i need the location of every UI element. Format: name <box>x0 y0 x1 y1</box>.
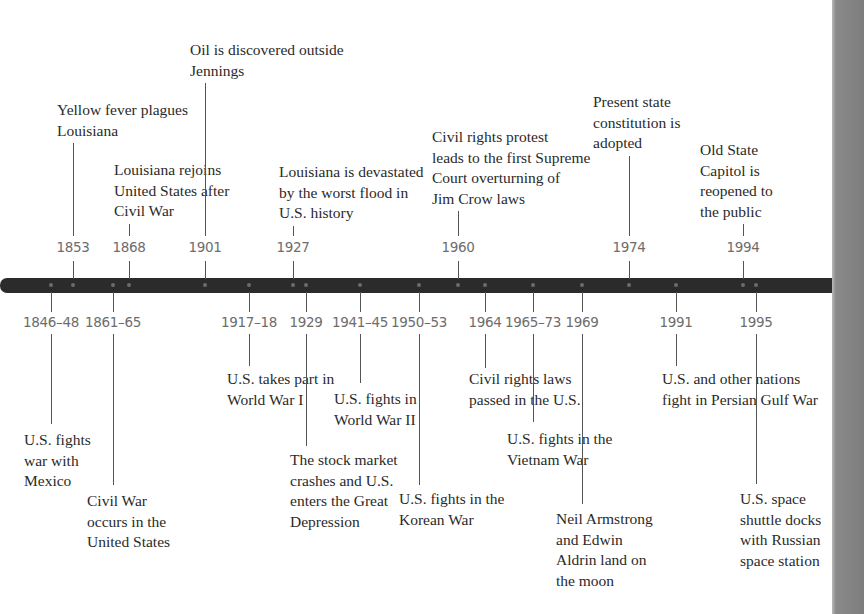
timeline-marker <box>580 283 584 287</box>
timeline-marker <box>417 283 421 287</box>
connector-line <box>629 261 630 279</box>
connector-line <box>73 143 74 236</box>
connector-line <box>743 224 744 236</box>
connector-line <box>129 224 130 237</box>
connector-line <box>582 292 583 312</box>
event-description: Oil is discovered outside Jennings <box>190 40 344 81</box>
timeline-marker <box>304 283 308 287</box>
event-description: U.S. fights in World War II <box>334 389 417 430</box>
event-description: U.S. fights in the Vietnam War <box>507 429 613 470</box>
event-year: 1991 <box>659 314 692 330</box>
event-description: Present state constitution is adopted <box>593 92 680 154</box>
timeline-marker <box>127 283 131 287</box>
event-description: U.S. and other nations fight in Persian … <box>662 369 818 410</box>
connector-line <box>73 261 74 279</box>
event-year: 1969 <box>565 314 598 330</box>
event-description: Louisiana is devastated by the worst flo… <box>279 162 424 224</box>
connector-line <box>205 261 206 279</box>
timeline-marker <box>247 283 251 287</box>
event-year: 1861–65 <box>85 314 141 330</box>
page-edge-strip <box>832 0 864 614</box>
timeline-marker <box>531 283 535 287</box>
connector-line <box>458 261 459 279</box>
timeline-marker <box>111 283 115 287</box>
event-description: Old State Capitol is reopened to the pub… <box>700 140 773 222</box>
timeline-marker <box>627 283 631 287</box>
connector-line <box>533 292 534 312</box>
connector-line <box>113 292 114 312</box>
timeline-bar <box>0 278 832 293</box>
connector-line <box>205 83 206 236</box>
connector-line <box>293 226 294 237</box>
connector-line <box>419 334 420 485</box>
event-year: 1868 <box>112 239 145 255</box>
event-year: 1941–45 <box>332 314 388 330</box>
timeline-marker <box>741 283 745 287</box>
timeline-marker <box>358 283 362 287</box>
connector-line <box>676 334 677 366</box>
event-year: 1853 <box>56 239 89 255</box>
event-year: 1995 <box>739 314 772 330</box>
connector-line <box>113 334 114 485</box>
event-year: 1964 <box>468 314 501 330</box>
connector-line <box>306 292 307 312</box>
connector-line <box>51 292 52 312</box>
event-description: U.S. fights in the Korean War <box>399 489 505 530</box>
connector-line <box>533 334 534 422</box>
event-description: Civil rights laws passed in the U.S. <box>469 369 581 410</box>
event-year: 1917–18 <box>221 314 277 330</box>
connector-line <box>360 334 361 383</box>
connector-line <box>756 292 757 312</box>
connector-line <box>129 261 130 279</box>
event-year: 1994 <box>726 239 759 255</box>
timeline-marker <box>674 283 678 287</box>
connector-line <box>293 261 294 279</box>
event-year: 1846–48 <box>23 314 79 330</box>
event-description: The stock market crashes and U.S. enters… <box>290 450 398 532</box>
timeline-marker <box>291 283 295 287</box>
timeline-marker <box>456 283 460 287</box>
event-year: 1965–73 <box>505 314 561 330</box>
event-description: Civil War occurs in the United States <box>87 491 170 553</box>
timeline-marker <box>71 283 75 287</box>
event-year: 1927 <box>276 239 309 255</box>
connector-line <box>582 334 583 504</box>
event-year: 1974 <box>612 239 645 255</box>
event-year: 1960 <box>441 239 474 255</box>
connector-line <box>306 334 307 446</box>
connector-line <box>249 292 250 312</box>
timeline-marker <box>483 283 487 287</box>
event-description: U.S. space shuttle docks with Russian sp… <box>740 489 821 571</box>
event-year: 1929 <box>289 314 322 330</box>
connector-line <box>51 334 52 424</box>
event-year: 1901 <box>188 239 221 255</box>
connector-line <box>485 334 486 368</box>
timeline-marker <box>49 283 53 287</box>
event-description: U.S. takes part in World War I <box>227 369 334 410</box>
timeline-marker <box>754 283 758 287</box>
connector-line <box>676 292 677 312</box>
connector-line <box>360 292 361 312</box>
connector-line <box>485 292 486 312</box>
connector-line <box>419 292 420 312</box>
event-description: Neil Armstrong and Edwin Aldrin land on … <box>556 509 653 591</box>
connector-line <box>458 211 459 236</box>
event-description: Yellow fever plagues Louisiana <box>57 100 188 141</box>
connector-line <box>743 261 744 279</box>
timeline-marker <box>203 283 207 287</box>
event-year: 1950–53 <box>391 314 447 330</box>
event-description: Civil rights protest leads to the first … <box>432 127 590 209</box>
connector-line <box>756 334 757 484</box>
event-description: U.S. fights war with Mexico <box>24 430 91 492</box>
connector-line <box>629 156 630 237</box>
connector-line <box>249 334 250 366</box>
event-description: Louisiana rejoins United States after Ci… <box>114 160 229 222</box>
